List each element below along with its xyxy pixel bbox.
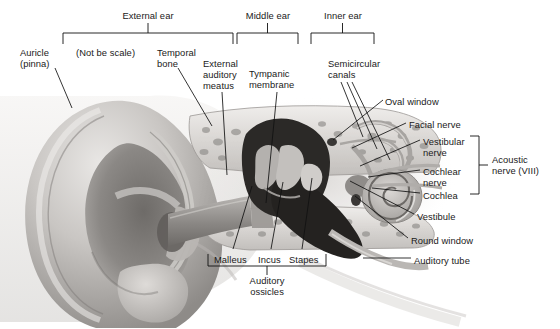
leader-semicircular-3 [352, 82, 390, 160]
leader-cochlea [372, 188, 420, 193]
label-inner-ear: Inner ear [273, 10, 413, 21]
label-acoustic-nerve: Acoustic nerve (VIII) [492, 154, 539, 176]
leader-stapes [302, 178, 312, 249]
label-vestibule: Vestibule [417, 211, 456, 222]
leader-meatus [222, 92, 227, 175]
leader-lines [55, 68, 420, 258]
leader-round-window [355, 196, 408, 238]
ear-anatomy-figure: Auricle (pinna)(Not be scale)Temporal bo… [0, 0, 560, 329]
label-vestibular-nerve: Vestibular nerve [423, 136, 465, 158]
label-facial-nerve: Facial nerve [409, 119, 461, 130]
label-external-ear: External ear [78, 10, 218, 21]
label-stapes: Stapes [289, 254, 319, 265]
bracket-middle-ear [237, 23, 298, 44]
leader-malleus [233, 186, 252, 249]
leader-auricle [55, 68, 72, 108]
leader-incus [271, 182, 283, 249]
label-auricle-pinna: Auricle (pinna) [20, 47, 50, 69]
label-semicircular-canals: Semicircular canals [328, 58, 380, 80]
label-auditory-tube: Auditory tube [414, 255, 470, 266]
label-oval-window: Oval window [385, 96, 439, 107]
label-not-to-scale-note: (Not be scale) [76, 47, 135, 58]
label-cochlea: Cochlea [423, 190, 458, 201]
label-malleus: Malleus [214, 254, 247, 265]
label-cochlear-nerve: Cochlear nerve [423, 166, 461, 188]
leader-cochlear-nerve [368, 170, 420, 177]
leader-vestibular-nerve [360, 140, 420, 166]
leader-facial-nerve [352, 123, 406, 148]
label-round-window: Round window [411, 235, 473, 246]
label-external-auditory-meatus: External auditory meatus [203, 58, 238, 92]
label-tympanic-membrane: Tympanic membrane [249, 68, 294, 90]
bracket-inner-ear [311, 23, 374, 44]
label-incus: Incus [258, 254, 281, 265]
leader-tympanic-membrane [266, 92, 277, 203]
label-auditory-ossicles: Auditory ossicles [197, 275, 337, 297]
label-temporal-bone: Temporal bone [157, 47, 196, 69]
leader-vestibule [350, 181, 414, 214]
bracket-external-ear [63, 23, 233, 44]
bracket-acoustic-nerve [470, 136, 488, 194]
